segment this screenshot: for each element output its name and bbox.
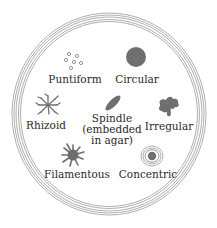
filamentous-label: Filamentous: [44, 169, 110, 180]
rhizoid-label: Rhizoid: [26, 120, 66, 131]
rhizoid-colony-icon: [36, 94, 60, 114]
circular-colony-icon: [126, 47, 146, 67]
concentric-label: Concentric: [119, 169, 177, 180]
punctiform-colony-icon: [64, 52, 82, 69]
irregular-colony-icon: [159, 97, 179, 116]
punctiform-label: Puntiform: [48, 74, 101, 85]
concentric-colony-icon: [141, 146, 163, 166]
spindle-colony-icon: [103, 93, 122, 112]
circular-label: Circular: [115, 74, 159, 85]
irregular-label: Irregular: [145, 121, 194, 132]
petri-dish-diagram: Puntiform Circular Rhizoid Spindle (embe…: [0, 0, 217, 228]
filamentous-colony-icon: [62, 144, 84, 166]
spindle-label-line-3: in agar): [91, 135, 133, 146]
